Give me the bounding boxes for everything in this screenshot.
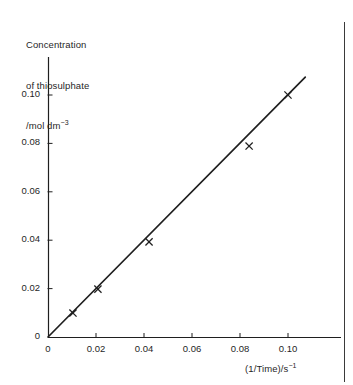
data-point-marker	[284, 91, 291, 98]
marker-stroke	[284, 91, 291, 98]
x-tick-label: 0.08	[220, 343, 260, 354]
y-axis-title-exponent: −3	[60, 119, 68, 126]
y-axis-title-units: /mol dm	[26, 120, 60, 131]
y-tick-label: 0.08	[6, 136, 40, 147]
figure-container: Concentration of thiosulphate /mol dm−3 …	[0, 0, 353, 385]
x-axis-title-base: (1/Time)/s	[245, 363, 288, 374]
marker-stroke	[94, 285, 101, 292]
marker-stroke	[246, 142, 253, 149]
marker-stroke	[246, 142, 253, 149]
x-tick-label: 0.06	[172, 343, 212, 354]
y-axis-title-line-1: Concentration	[26, 38, 89, 52]
y-axis-title-line-3: /mol dm−3	[26, 119, 89, 133]
x-axis-title: (1/Time)/s−1	[245, 362, 297, 376]
marker-stroke	[94, 285, 101, 292]
x-tick-label: 0	[28, 343, 68, 354]
x-tick-label: 0.02	[76, 343, 116, 354]
marker-stroke	[145, 238, 152, 245]
x-tick-label: 0.04	[124, 343, 164, 354]
marker-stroke	[145, 238, 152, 245]
y-tick-label: 0.04	[6, 233, 40, 244]
page-edge-rule	[344, 22, 345, 382]
y-tick-label: 0.10	[6, 88, 40, 99]
marker-stroke	[69, 309, 76, 316]
x-tick-label: 0.10	[268, 343, 308, 354]
data-point-marker	[94, 285, 101, 292]
axes	[48, 57, 341, 338]
marker-stroke	[69, 309, 76, 316]
data-point-marker	[246, 142, 253, 149]
y-tick-label: 0.06	[6, 185, 40, 196]
y-tick-label: 0	[6, 330, 40, 341]
marker-stroke	[284, 91, 291, 98]
data-point-marker	[69, 309, 76, 316]
x-axis-title-exponent: −1	[288, 362, 296, 369]
data-point-marker	[145, 238, 152, 245]
y-tick-label: 0.02	[6, 282, 40, 293]
data-markers	[69, 91, 291, 316]
